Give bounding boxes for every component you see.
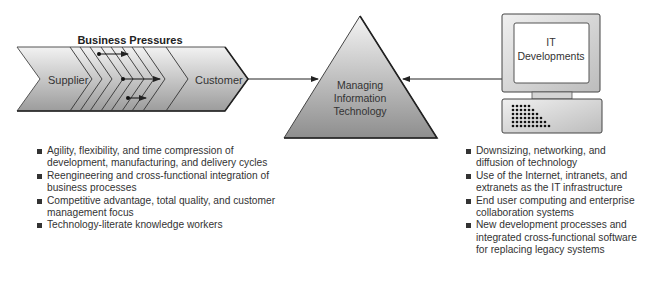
center-label-line2: Information bbox=[334, 92, 387, 104]
value-chain-title: Business Pressures bbox=[77, 34, 182, 46]
it-developments-list: Downsizing, networking, and diffusion of… bbox=[466, 145, 646, 257]
supplier-label: Supplier bbox=[48, 74, 89, 86]
list-item: Downsizing, networking, and diffusion of… bbox=[466, 145, 646, 170]
center-label-line1: Managing bbox=[337, 79, 383, 91]
list-item: Competitive advantage, total quality, an… bbox=[37, 195, 277, 220]
list-item: New development processes and integrated… bbox=[466, 219, 646, 256]
monitor-label-line2: Developments bbox=[517, 50, 584, 62]
list-item: Reengineering and cross-functional integ… bbox=[37, 170, 277, 195]
computer-icon: IT Developments bbox=[502, 14, 602, 133]
list-item: Agility, flexibility, and time compressi… bbox=[37, 145, 277, 170]
customer-label: Customer bbox=[195, 74, 243, 86]
list-item: Use of the Internet, intranets, and extr… bbox=[466, 170, 646, 195]
list-item: End user computing and enterprise collab… bbox=[466, 195, 646, 220]
center-label-line3: Technology bbox=[333, 105, 387, 117]
value-chain-chevron: Business Pressures Supplier Customer bbox=[17, 34, 248, 111]
monitor-label-line1: IT bbox=[546, 36, 556, 48]
business-pressures-list: Agility, flexibility, and time compressi… bbox=[37, 145, 277, 232]
managing-it-triangle: Managing Information Technology bbox=[284, 16, 437, 138]
list-item: Technology-literate knowledge workers bbox=[37, 219, 277, 231]
